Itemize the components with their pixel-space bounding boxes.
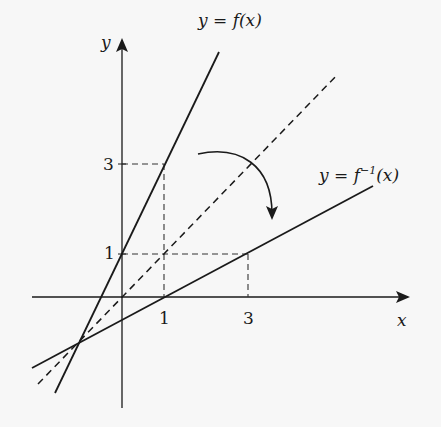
f-inverse-line — [32, 186, 373, 368]
tick-label-x3: 3 — [243, 310, 254, 327]
f-inverse-label-suffix: (x) — [376, 165, 399, 185]
f-inverse-label-exponent: −1 — [360, 164, 376, 177]
tick-label-y1: 1 — [104, 245, 115, 262]
f-inverse-label-prefix: y = f — [319, 165, 360, 185]
diagram-canvas — [0, 0, 441, 427]
x-axis-label: x — [397, 312, 407, 329]
f-curve-label: y = f(x) — [198, 12, 262, 29]
reflection-arrow-icon — [198, 152, 272, 214]
y-axis-label: y — [101, 34, 111, 51]
f-inverse-curve-label: y = f−1(x) — [319, 167, 399, 184]
tick-label-x1: 1 — [159, 310, 170, 327]
tick-label-y3: 3 — [103, 156, 114, 173]
